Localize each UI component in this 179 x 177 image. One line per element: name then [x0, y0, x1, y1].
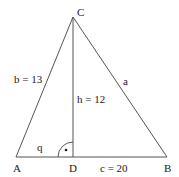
vertex-label-c: C [77, 6, 84, 18]
segment-q-label: q [37, 141, 43, 153]
diagram-svg: C A D B b = 13 a h = 12 q c = 20 [0, 0, 179, 177]
side-a-label: a [123, 75, 128, 87]
right-angle-dot-icon [65, 149, 68, 152]
vertex-label-b: B [164, 162, 171, 174]
side-a-line [73, 17, 167, 157]
side-b-label: b = 13 [14, 73, 43, 85]
side-b-line [16, 17, 73, 157]
vertex-label-d: D [69, 162, 77, 174]
height-label: h = 12 [77, 93, 105, 105]
side-c-label: c = 20 [100, 162, 128, 174]
vertex-label-a: A [13, 162, 21, 174]
triangle-diagram: C A D B b = 13 a h = 12 q c = 20 [0, 0, 179, 177]
